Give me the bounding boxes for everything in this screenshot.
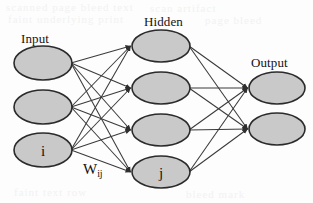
connection-edge — [189, 129, 248, 172]
hidden-node-3-shape[interactable] — [132, 114, 190, 146]
edges-hidden-to-output — [189, 46, 248, 172]
hidden-node-4[interactable]: j — [132, 156, 190, 188]
input-node-1[interactable] — [14, 46, 72, 80]
connection-edge — [71, 63, 131, 88]
hidden-node-4-label: j — [158, 165, 163, 181]
hidden-node-1[interactable] — [132, 30, 190, 62]
hidden-node-2-shape[interactable] — [132, 72, 190, 104]
layer-label-output: Output — [251, 55, 288, 71]
connection-edge — [189, 46, 248, 88]
edges-input-to-hidden — [71, 46, 131, 172]
connection-edge — [71, 63, 131, 130]
nodes-group: ij — [14, 30, 305, 188]
input-node-2-shape[interactable] — [14, 90, 72, 124]
hidden-node-2[interactable] — [132, 72, 190, 104]
hidden-node-1-shape[interactable] — [132, 30, 190, 62]
layer-label-hidden: Hidden — [144, 14, 183, 30]
hidden-node-3[interactable] — [132, 114, 190, 146]
output-node-1-shape[interactable] — [249, 72, 305, 104]
weight-label-wij: Wij — [83, 161, 102, 179]
output-node-2[interactable] — [249, 113, 305, 145]
input-node-1-shape[interactable] — [14, 46, 72, 80]
input-node-3-label: i — [41, 143, 45, 159]
output-node-2-shape[interactable] — [249, 113, 305, 145]
input-node-2[interactable] — [14, 90, 72, 124]
neural-network-diagram: scanned page bleed text faint underlying… — [0, 0, 313, 203]
layer-label-input: Input — [21, 31, 49, 47]
weight-label-subscript: ij — [97, 168, 102, 179]
output-node-1[interactable] — [249, 72, 305, 104]
input-node-3[interactable]: i — [14, 133, 72, 167]
weight-label-base: W — [83, 161, 97, 177]
